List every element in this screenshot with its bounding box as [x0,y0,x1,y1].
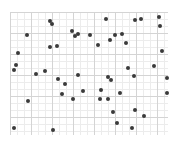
data-point [120,32,124,36]
data-point [124,41,128,45]
data-point [81,89,85,93]
data-point [109,78,113,82]
data-point [106,97,110,101]
data-point [126,66,130,70]
data-point [133,108,137,112]
data-point [165,91,169,95]
data-point [111,110,115,114]
data-point [118,91,122,95]
data-point [76,32,80,36]
data-point [113,33,117,37]
data-point [98,97,102,101]
data-point [12,68,16,72]
data-point [48,45,52,49]
data-point [51,128,55,132]
data-point [26,99,30,103]
data-point [14,63,18,67]
data-point [50,22,54,26]
data-point [108,38,112,42]
data-point [160,49,164,53]
data-point [16,51,20,55]
data-point [99,88,103,92]
data-point [157,15,161,19]
data-point [43,69,47,73]
data-point [115,121,119,125]
data-point [133,18,137,22]
data-point [60,92,64,96]
data-point [96,43,100,47]
data-point [152,64,156,68]
data-point [34,72,38,76]
data-point [55,44,59,48]
data-point [142,114,146,118]
data-point [70,29,74,33]
data-point [12,126,16,130]
data-point [56,77,60,81]
data-point [165,76,169,80]
data-point [158,24,162,28]
data-point [139,17,143,21]
data-point [25,33,29,37]
data-point [71,97,75,101]
data-point [88,33,92,37]
data-point [76,73,80,77]
data-point [104,17,108,21]
scatter-plot-area [10,12,168,135]
data-point [132,74,136,78]
data-point [130,126,134,130]
data-point [63,82,67,86]
